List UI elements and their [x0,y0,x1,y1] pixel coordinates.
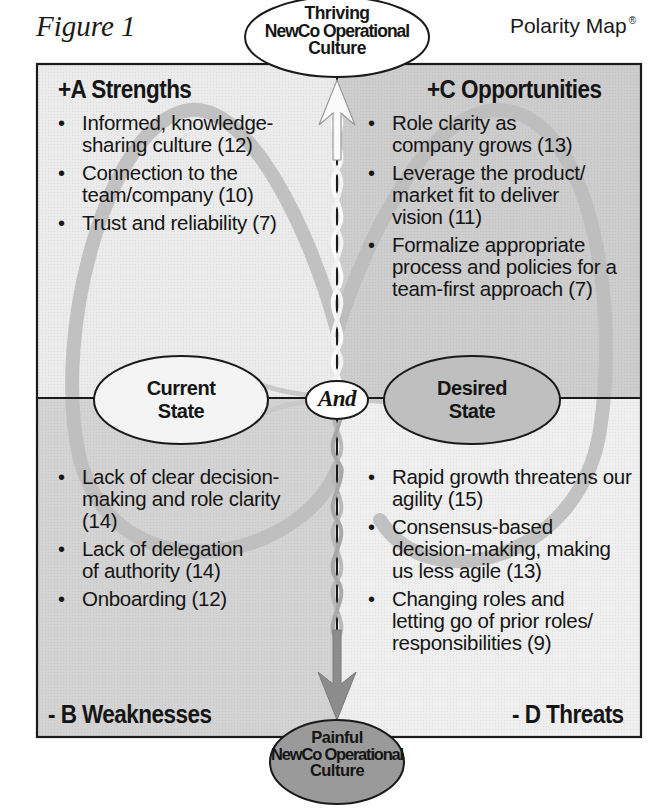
list-item: Changing roles and letting go of prior r… [368,588,633,654]
thriving-label: Thriving NewCo Operational Culture [245,5,429,58]
list-item: Lack of clear decision-making and role c… [58,466,303,532]
list-item: Leverage the product/ market fit to deli… [368,162,638,228]
desired-line1: Desired [412,377,532,400]
thriving-line1: Thriving [245,5,429,23]
quadrant-c-title: +C Opportunities [427,75,602,104]
thriving-line3: Culture [245,40,429,58]
registered-mark: ® [629,15,636,26]
list-item: Rapid growth threatens our agility (15) [368,466,633,510]
quadrant-d-list: Rapid growth threatens our agility (15) … [368,466,633,660]
current-line1: Current [121,377,241,400]
quadrant-c-list: Role clarity as company grows (13) Lever… [368,112,638,306]
quadrant-a-list: Informed, knowledge-sharing culture (12)… [58,112,298,240]
desired-state-label: Desired State [412,377,532,423]
list-item: Role clarity as company grows (13) [368,112,638,156]
figure-label: Figure 1 [36,10,136,43]
list-item: Trust and reliability (7) [58,212,298,234]
current-state-label: Current State [121,377,241,423]
list-item: Informed, knowledge-sharing culture (12) [58,112,298,156]
desired-line2: State [412,400,532,423]
and-label: And [306,387,368,410]
quadrant-a-title: +A Strengths [58,75,191,104]
quadrant-d-title: - D Threats [512,700,624,729]
list-item: Consensus-based decision-making, making … [368,516,633,582]
quadrant-b-list: Lack of clear decision-making and role c… [58,466,303,616]
list-item: Onboarding (12) [58,588,303,610]
list-item: Formalize appropriate process and polici… [368,234,638,300]
list-item: Lack of delegation of authority (14) [58,538,303,582]
current-line2: State [121,400,241,423]
painful-line1: Painful [265,729,409,746]
painful-line2: NewCo Operational [265,746,409,763]
painful-label: Painful NewCo Operational Culture [265,729,409,779]
brand-text: Polarity Map [510,14,627,37]
quadrant-b-title: - B Weaknesses [48,700,211,729]
list-item: Connection to the team/company (10) [58,162,298,206]
painful-line3: Culture [265,762,409,779]
brand-label: Polarity Map® [510,14,636,38]
